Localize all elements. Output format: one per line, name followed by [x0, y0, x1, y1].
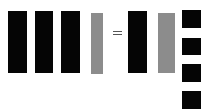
unit-square-4 [182, 91, 201, 109]
unit-square-2 [182, 38, 201, 55]
black-rod-2 [35, 11, 53, 73]
unit-square-3 [182, 64, 201, 82]
black-rod-4 [128, 11, 147, 73]
equals-bar-bottom [113, 34, 122, 35]
unit-square-1 [182, 10, 201, 28]
gray-rod-1 [91, 13, 103, 74]
gray-rod-2 [158, 13, 175, 73]
black-rod-1 [8, 11, 27, 73]
equals-bar-top [113, 31, 122, 32]
black-rod-3 [61, 11, 80, 73]
